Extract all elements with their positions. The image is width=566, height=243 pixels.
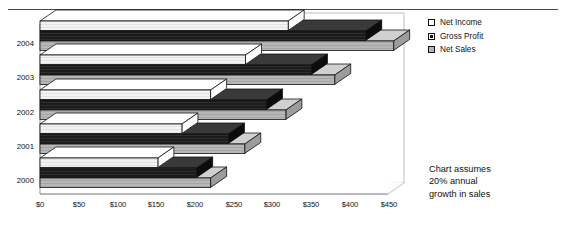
x-tick-200: $200 [187, 200, 204, 209]
bar-2002-net-income [40, 79, 227, 99]
annotation-line-3: growth in sales [429, 188, 559, 200]
legend-swatch-icon-gross-profit [428, 33, 435, 40]
legend-item-net-sales[interactable]: Net Sales [428, 43, 558, 57]
legend-item-gross-profit[interactable]: Gross Profit [428, 30, 558, 44]
legend-label-gross-profit: Gross Profit [440, 32, 483, 41]
annotation-line-2: 20% annual [429, 175, 559, 187]
x-tick-100: $100 [110, 200, 127, 209]
bar-2000-net-income [40, 147, 174, 167]
x-axis-ticks: $0 $50 $100 $150 $200 $250 $300 $350 $40… [0, 200, 566, 214]
legend-label-net-income: Net Income [440, 18, 482, 27]
x-tick-150: $150 [148, 200, 165, 209]
chart-legend: Net Income Gross Profit Net Sales [428, 16, 558, 57]
chart-annotation: Chart assumes 20% annual growth in sales [429, 163, 559, 200]
annotation-line-1: Chart assumes [429, 163, 559, 175]
x-tick-350: $350 [303, 200, 320, 209]
legend-swatch-icon-net-income [428, 19, 435, 26]
x-tick-50: $50 [73, 200, 85, 209]
x-tick-250: $250 [226, 200, 243, 209]
x-tick-450: $450 [381, 200, 398, 209]
x-tick-400: $400 [342, 200, 359, 209]
legend-swatch-icon-net-sales [428, 46, 435, 53]
bar-2001-net-income [40, 113, 198, 133]
bar-2003-net-income [40, 44, 262, 64]
chart-figure: 2004 2003 2002 2001 2000 $0 $50 $1 [0, 0, 566, 243]
x-tick-300: $300 [264, 200, 281, 209]
legend-label-net-sales: Net Sales [440, 45, 476, 54]
legend-item-net-income[interactable]: Net Income [428, 16, 558, 30]
x-tick-0: $0 [36, 200, 44, 209]
bar-2004-net-income [40, 10, 304, 30]
